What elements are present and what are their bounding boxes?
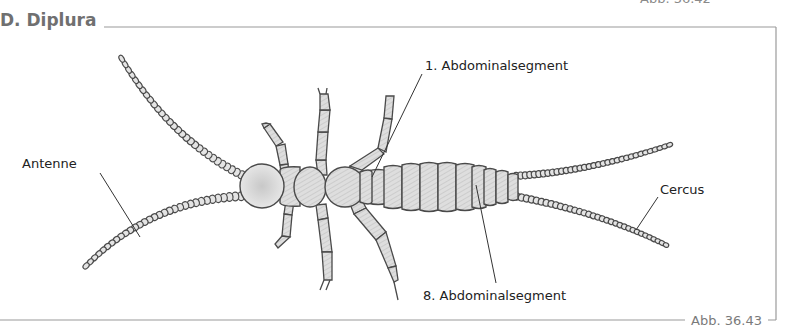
diplura-illustration: Antenne 1. Abdominalsegment 8. Abdominal… <box>0 0 788 334</box>
mesothorax <box>294 167 326 207</box>
metathorax <box>325 167 365 207</box>
antennae <box>82 54 246 270</box>
leg-middle-upper <box>316 88 330 175</box>
leg-middle-lower <box>316 204 332 290</box>
abdomen <box>368 163 518 212</box>
cerci <box>513 142 674 248</box>
abdominal-segment-4 <box>420 163 438 212</box>
leg-front-lower <box>275 200 294 248</box>
figure-caption: Abb. 36.43 <box>685 313 768 328</box>
label-cercus: Cercus <box>660 182 705 197</box>
abdominal-segment-2 <box>384 166 402 209</box>
head <box>240 164 284 208</box>
label-abdominal-segment-8: 8. Abdominalsegment <box>423 288 566 303</box>
abdominal-segment-3 <box>402 164 420 211</box>
antenna-upper-segment <box>118 54 126 63</box>
label-antenna: Antenne <box>22 156 77 171</box>
label-abdominal-segment-1: 1. Abdominalsegment <box>425 58 568 73</box>
figure-title: D. Diplura <box>0 10 104 30</box>
cercus-upper-segment <box>666 142 673 148</box>
abdominal-segment-8 <box>484 169 496 206</box>
cercus-lower-segment <box>663 242 670 248</box>
abdominal-segment-9 <box>496 171 508 204</box>
leader-antenna <box>100 173 140 237</box>
abdominal-segment-5 <box>438 163 456 212</box>
leg-hind-lower <box>350 200 398 300</box>
thorax-rear <box>360 170 372 204</box>
abdominal-segment-10 <box>508 174 518 201</box>
leader-abdominal-segment-1 <box>372 74 422 177</box>
leader-cercus <box>636 197 658 230</box>
